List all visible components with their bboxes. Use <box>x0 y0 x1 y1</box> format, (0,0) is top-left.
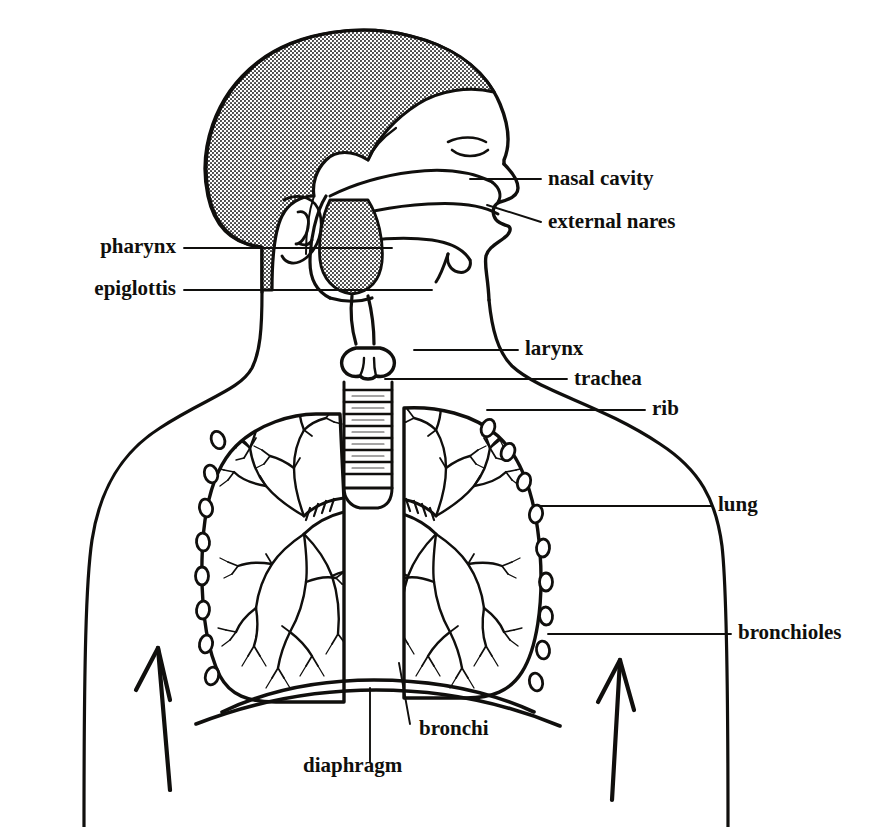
diagram-canvas: nasal cavity external nares pharynx epig… <box>0 0 880 827</box>
label-bronchi: bronchi <box>419 716 489 740</box>
epiglottis-structure <box>351 296 374 344</box>
respiratory-system-diagram: nasal cavity external nares pharynx epig… <box>0 0 880 827</box>
trachea-structure <box>344 382 392 508</box>
airflow-arrow-left <box>136 648 170 790</box>
label-bronchioles: bronchioles <box>738 620 841 644</box>
label-larynx: larynx <box>525 336 584 360</box>
label-external-nares: external nares <box>548 209 675 233</box>
label-epiglottis: epiglottis <box>94 276 176 300</box>
left-lung <box>202 384 372 702</box>
pharynx-shaded-region <box>319 200 382 294</box>
eye <box>448 138 488 157</box>
larynx-structure <box>342 348 395 379</box>
label-lung: lung <box>718 492 758 516</box>
label-nasal-cavity: nasal cavity <box>548 166 654 190</box>
right-lung <box>368 384 541 698</box>
label-pharynx: pharynx <box>100 234 176 258</box>
label-rib: rib <box>652 396 679 420</box>
label-diaphragm: diaphragm <box>303 753 403 777</box>
airflow-arrow-right <box>598 660 634 800</box>
label-trachea: trachea <box>574 366 642 390</box>
